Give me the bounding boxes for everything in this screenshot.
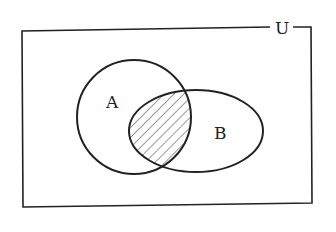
set-b-label: B	[214, 123, 227, 143]
set-a-label: A	[105, 92, 119, 112]
venn-svg: U A B	[0, 0, 336, 232]
venn-diagram: U A B	[0, 0, 336, 232]
universe-label: U	[275, 18, 289, 38]
